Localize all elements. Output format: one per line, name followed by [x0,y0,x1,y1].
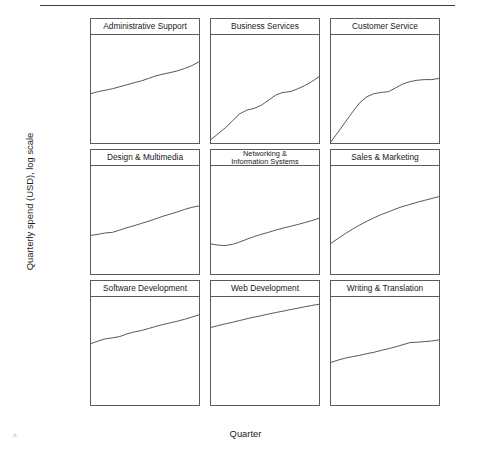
x-tick-mark [211,405,212,406]
facet-panel: Networking &Information Systems [210,149,320,275]
facet-panel: Business Services [210,18,320,144]
series-line [211,77,319,140]
facet-plot-area [210,34,320,144]
series-line [331,78,439,141]
y-tick-mark [90,383,91,384]
facet-plot-area: 2009201020112012 [210,296,320,406]
facet-plot-area [210,165,320,275]
series-line [91,62,199,94]
facet-panel-title: Design & Multimedia [90,149,200,165]
facet-panel: Software Development$100,000$1,000,000$1… [90,280,200,406]
y-tick-mark [90,352,91,353]
x-tick-mark [269,405,270,406]
facet-plot-area: $100,000$1,000,000$10,000,000 [90,165,200,275]
series-line [211,218,319,245]
y-tick-mark [90,121,91,122]
x-tick-mark [120,405,121,406]
facet-panel: Writing & Translation2009201020112012 [330,280,440,406]
facet-panel-title: Customer Service [330,18,440,34]
y-tick-mark [90,190,91,191]
y-tick-mark [90,321,91,322]
x-tick-mark [297,405,298,406]
series-line [91,206,199,235]
y-tick-mark [90,221,91,222]
facet-panel-title: Networking &Information Systems [210,149,320,165]
y-tick-mark [90,90,91,91]
facet-plot-area: $100,000$1,000,000$10,000,00020092010201… [90,296,200,406]
facet-panel: Sales & Marketing [330,149,440,275]
facet-panel: Design & Multimedia$100,000$1,000,000$10… [90,149,200,275]
facet-panel-title: Writing & Translation [330,280,440,296]
facet-panel: Customer Service [330,18,440,144]
facet-panel-title: Administrative Support [90,18,200,34]
series-line [91,315,199,344]
facet-panel-title: Business Services [210,18,320,34]
header-rule [40,5,455,6]
x-axis-title: Quarter [0,428,491,439]
series-line [331,197,439,244]
facet-panel-title: Sales & Marketing [330,149,440,165]
facet-plot-area [330,165,440,275]
x-tick-mark [149,405,150,406]
x-tick-mark [177,405,178,406]
facet-panel: Web Development2009201020112012 [210,280,320,406]
x-tick-mark [360,405,361,406]
facet-grid: Administrative Support$100,000$1,000,000… [90,18,436,402]
figure-root: ✶ Quarterly spend (USD), log scale Admin… [0,0,491,450]
series-line [331,340,439,363]
facet-panel: Administrative Support$100,000$1,000,000… [90,18,200,144]
facet-plot-area [330,34,440,144]
facet-panel-title: Software Development [90,280,200,296]
facet-plot-area: 2009201020112012 [330,296,440,406]
x-tick-mark [417,405,418,406]
x-tick-mark [91,405,92,406]
y-axis-title: Quarterly spend (USD), log scale [24,112,35,292]
facet-plot-area: $100,000$1,000,000$10,000,000 [90,34,200,144]
y-tick-mark [90,252,91,253]
series-line [211,304,319,327]
x-tick-mark [389,405,390,406]
x-tick-mark [240,405,241,406]
facet-panel-title: Web Development [210,280,320,296]
x-tick-mark [331,405,332,406]
y-tick-mark [90,59,91,60]
